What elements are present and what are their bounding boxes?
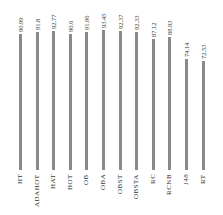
value-label: 93.45 xyxy=(100,13,107,28)
bar-rc xyxy=(152,39,155,170)
bar-oba xyxy=(102,30,105,170)
value-label: 92.77 xyxy=(50,14,57,29)
category-label: OB xyxy=(82,174,90,185)
value-label: 74.14 xyxy=(183,42,190,57)
bar-chart: 90.99HT91.8ADAHOT92.77HAT90.6HOT91.96OB9… xyxy=(0,0,223,215)
bar-obst xyxy=(119,31,122,170)
category-label: RCNB xyxy=(165,174,173,195)
bar-ht xyxy=(19,34,22,170)
category-label: J48 xyxy=(182,174,190,185)
bar-adahot xyxy=(36,32,39,170)
bar-ob xyxy=(85,32,88,170)
value-label: 91.8 xyxy=(34,19,41,30)
bar-hot xyxy=(69,34,72,170)
value-label: 90.99 xyxy=(17,17,24,32)
value-label: 87.12 xyxy=(150,23,157,38)
category-label: HAT xyxy=(49,174,57,189)
bar-rt xyxy=(202,61,205,170)
bar-rcnb xyxy=(168,37,171,170)
category-label: RC xyxy=(149,174,157,184)
category-label: HOT xyxy=(66,174,74,190)
value-label: 72.53 xyxy=(200,45,207,60)
value-label: 92.33 xyxy=(133,15,140,30)
category-label: HT xyxy=(16,174,24,184)
bar-j48 xyxy=(185,59,188,170)
category-label: RT xyxy=(199,174,207,184)
category-label: OBSTA xyxy=(132,174,140,199)
value-label: 88.93 xyxy=(166,20,173,35)
category-label: OBA xyxy=(99,174,107,190)
bar-obsta xyxy=(135,32,138,170)
value-label: 90.6 xyxy=(67,21,74,32)
value-label: 91.96 xyxy=(83,15,90,30)
value-label: 92.37 xyxy=(117,15,124,30)
bar-hat xyxy=(52,31,55,170)
category-label: ADAHOT xyxy=(33,174,41,207)
category-label: OBST xyxy=(116,174,124,194)
